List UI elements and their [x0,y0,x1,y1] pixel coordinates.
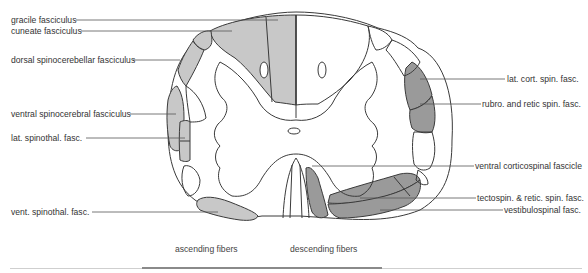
label-lat-cort-spin-fasc: lat. cort. spin. fasc. [507,74,579,84]
bottom-rule-accent [142,267,382,269]
label-dorsal-spinocerebellar-fasciculus: dorsal spinocerebellar fasciculus [11,55,135,65]
vent-spinothalamic-tract [197,197,258,220]
central-canal [288,128,300,134]
caption-ascending-fibers: ascending fibers [175,244,238,254]
spinal-cord-diagram [0,0,588,273]
label-tectospin-retic-spin-fasc: tectospin. & retic. spin. fasc. [477,193,584,203]
right-dorsal-column [296,15,369,105]
label-ventral-corticospinal-fascicle: ventral corticospinal fascicle [475,161,582,171]
anterior-median-fissure [283,158,309,218]
caption-descending-fibers: descending fibers [290,244,357,254]
dorsal-horn-left-oval [260,62,268,78]
label-rubro-retic-spin-fasc: rubro. and retic spin. fasc. [482,99,581,109]
label-lat-spinothal-fasc: lat. spinothal. fasc. [11,133,82,143]
label-gracile-fasciculus: gracile fasciculus [11,15,76,25]
ventral-corticospinal-tract [306,167,328,217]
label-cuneate-fasciculus: cuneate fasciculus [11,26,82,36]
left-ventral-small [182,166,200,196]
label-vestibulospinal-fasc: vestibulospinal fasc. [504,205,581,215]
label-ventral-spinocerebral-fasciculus: ventral spinocerebral fasciculus [11,109,131,119]
left-lateral-region [186,86,206,122]
dorsal-horn-right-oval [318,62,326,78]
right-lateral-edge [413,132,435,170]
label-vent-spinothal-fasc: vent. spinothal. fasc. [11,207,89,217]
